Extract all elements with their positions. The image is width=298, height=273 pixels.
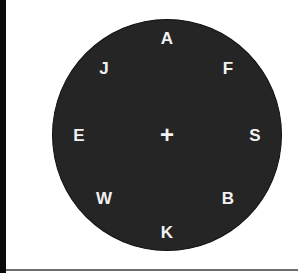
letter-s: S	[249, 127, 260, 144]
fixation-cross-icon: +	[160, 123, 174, 147]
letter-a: A	[161, 30, 173, 47]
letter-k: K	[161, 224, 173, 241]
letter-b: B	[222, 190, 234, 207]
left-border	[0, 0, 6, 273]
letter-e: E	[73, 127, 84, 144]
letter-j: J	[99, 60, 108, 77]
bottom-divider	[6, 269, 298, 271]
letter-w: W	[96, 190, 112, 207]
letter-f: F	[223, 60, 233, 77]
